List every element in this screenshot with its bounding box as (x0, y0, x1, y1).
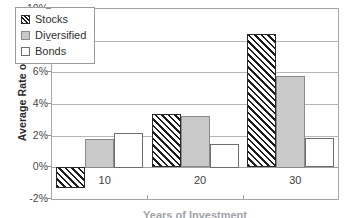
bar-bonds-20 (210, 144, 239, 168)
bar-diversified-10 (85, 139, 114, 168)
y-tick-mark (46, 40, 51, 41)
bar-stocks-10 (56, 167, 85, 188)
y-tick-mark (46, 198, 51, 199)
x-category-label-30: 30 (289, 174, 301, 186)
y-tick-label: 2% (18, 130, 48, 140)
y-tick-mark (46, 135, 51, 136)
bar-diversified-20 (181, 116, 210, 167)
legend-item-stocks: Stocks (21, 11, 86, 27)
bar-stocks-20 (152, 114, 181, 167)
y-tick-label: 4% (18, 98, 48, 108)
bar-stocks-30 (247, 34, 276, 167)
y-tick-mark (46, 71, 51, 72)
hatch-diagonal-swatch (21, 15, 30, 24)
gray-fill-swatch (21, 31, 30, 40)
white-fill-swatch (21, 47, 30, 56)
chart-legend: StocksDiversifiedBonds (15, 7, 95, 64)
x-category-label-10: 10 (99, 174, 111, 186)
legend-item-bonds: Bonds (21, 43, 86, 59)
legend-label: Stocks (35, 13, 68, 25)
y-tick-mark (46, 166, 51, 167)
x-category-label-20: 20 (194, 174, 206, 186)
y-tick-mark (46, 103, 51, 104)
bar-bonds-10 (114, 133, 143, 168)
bar-diversified-30 (276, 76, 305, 168)
legend-label: Diversified (35, 29, 86, 41)
legend-item-diversified: Diversified (21, 27, 86, 43)
gridline (52, 72, 338, 73)
x-axis-title: Years of Investment (51, 209, 339, 218)
x-tick-mark (243, 195, 244, 199)
bar-chart: Average Rate of Return 10%8%6%4%2%0%-2% … (0, 0, 353, 218)
y-tick-label: 0% (18, 161, 48, 171)
y-tick-label: 6% (18, 66, 48, 76)
y-tick-mark (46, 8, 51, 9)
y-tick-label: -2% (18, 193, 48, 203)
bar-bonds-30 (305, 138, 334, 167)
legend-label: Bonds (35, 45, 66, 57)
x-tick-mark (147, 195, 148, 199)
